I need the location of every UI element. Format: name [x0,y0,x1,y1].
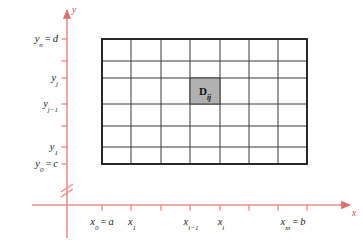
x-tick-label-xi: xi [218,217,225,228]
axes-group [32,10,350,238]
x-tick-label-x1: x1 [128,217,136,228]
x-tick-label-x0: x0=a [90,217,113,228]
y-tick-label-y0: y0=c [35,159,58,170]
y-axis-name: y [72,6,76,16]
figure-container: yn=d yj yj−1 y1 y0=c x0=a x1 xi−1 xi xm=… [0,0,363,248]
x-axis-name: x [352,209,356,219]
y-tick-label-yj: yj [51,73,58,84]
highlighted-cell-label: Dij [199,86,211,97]
y-tick-label-y1: y1 [50,142,58,153]
x-tick-label-xm: xm=b [281,217,306,228]
y-tick-label-yn: yn=d [35,34,58,45]
y-tick-label-yj−1: yj−1 [43,99,58,110]
tick-marks-group [62,39,308,211]
x-tick-label-xi−1: xi−1 [184,217,199,228]
